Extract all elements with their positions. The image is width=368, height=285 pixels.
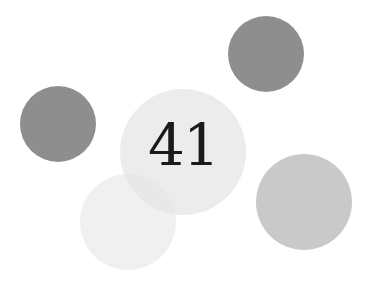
circle-left (20, 86, 96, 162)
number-label: 41 (143, 116, 223, 174)
circle-top-right (228, 16, 304, 92)
circle-bottom-right (256, 154, 352, 250)
